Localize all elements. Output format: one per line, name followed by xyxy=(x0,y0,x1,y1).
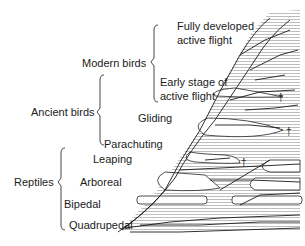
extinction-dagger-icon: † xyxy=(286,126,292,137)
stage-parachuting: Parachuting xyxy=(104,138,163,151)
reptiles-bracket xyxy=(58,148,65,230)
extinction-dagger-icon: † xyxy=(241,157,247,168)
modern-birds-bracket xyxy=(151,25,158,102)
stage-quadrupedal: Quadrupedal xyxy=(69,219,133,232)
group-modern-birds: Modern birds xyxy=(82,57,146,70)
stage-leaping: Leaping xyxy=(93,153,132,166)
stage-early-line2: active flight xyxy=(160,90,215,103)
ancient-birds-bracket xyxy=(97,75,104,145)
stage-bipedal: Bipedal xyxy=(64,198,101,211)
stage-fully-developed-line1: Fully developed xyxy=(177,20,254,33)
stage-fully-developed-line2: active flight xyxy=(177,34,232,47)
stage-gliding: Gliding xyxy=(138,112,172,125)
stage-arboreal: Arboreal xyxy=(80,176,122,189)
group-reptiles: Reptiles xyxy=(14,176,54,189)
stage-early-line1: Early stage of xyxy=(160,76,227,89)
extinction-dagger-icon: † xyxy=(278,92,284,103)
group-ancient-birds: Ancient birds xyxy=(31,106,95,119)
